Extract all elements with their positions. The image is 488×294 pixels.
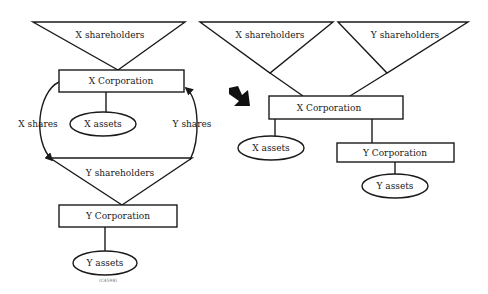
y-assets-label-after: Y assets: [376, 181, 414, 191]
y-shareholders-label-after: Y shareholders: [370, 30, 440, 40]
before-structure: X shareholders X Corporation X assets X …: [18, 22, 211, 283]
x-assets-label: X assets: [84, 119, 122, 129]
x-shares-label: X shares: [18, 119, 58, 129]
y-shareholders-triangle: [50, 158, 192, 205]
y-assets-label: Y assets: [86, 258, 124, 268]
y-corporation-label: Y Corporation: [85, 211, 150, 221]
x-shareholders-connector-after: [270, 73, 303, 96]
y-shares-label: Y shares: [172, 119, 212, 129]
x-corporation-label: X Corporation: [89, 76, 154, 86]
reorganization-diagram: X shareholders X Corporation X assets X …: [0, 0, 488, 294]
x-shareholders-label: X shareholders: [76, 30, 145, 40]
x-assets-label-after: X assets: [252, 143, 290, 153]
y-corporation-label-after: Y Corporation: [362, 148, 427, 158]
x-shareholders-label-after: X shareholders: [236, 30, 305, 40]
after-structure: X shareholders Y shareholders X Corporat…: [200, 22, 468, 198]
y-shareholders-connector-after: [350, 73, 387, 96]
x-corporation-label-after: X Corporation: [297, 103, 362, 113]
arrow-right-down-icon: [229, 86, 250, 106]
figure-caption: (C4598): [99, 278, 117, 283]
y-shareholders-label: Y shareholders: [85, 168, 155, 178]
